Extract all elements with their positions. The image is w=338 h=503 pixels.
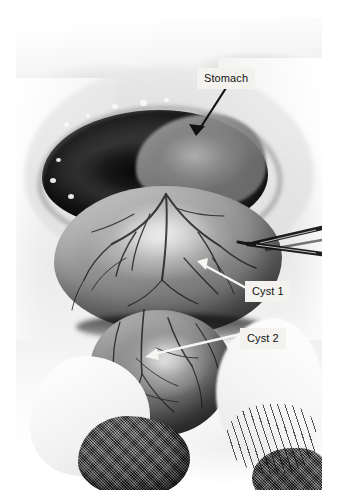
annotation-label-cyst-1: Cyst 1 — [245, 281, 291, 302]
annotation-label-stomach: Stomach — [197, 68, 255, 89]
surgical-forceps — [16, 18, 322, 490]
clinical-photograph — [16, 18, 322, 490]
screenshot-root: Stomach Cyst 1 Cyst 2 — [0, 0, 338, 503]
annotation-label-cyst-2: Cyst 2 — [240, 328, 286, 349]
